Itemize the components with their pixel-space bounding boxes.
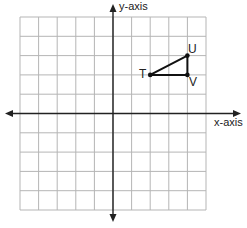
point-label-v: V	[189, 76, 197, 88]
y-axis-down-arrow-icon	[110, 214, 117, 222]
y-axis-up-arrow-icon	[110, 4, 117, 12]
coordinate-plane	[0, 0, 247, 228]
y-axis-label: y-axis	[119, 1, 148, 12]
x-axis-label: x-axis	[214, 117, 243, 128]
point-label-t: T	[139, 68, 146, 80]
x-axis-left-arrow-icon	[5, 110, 13, 117]
point-label-u: U	[188, 43, 197, 55]
point-t-dot	[148, 73, 153, 78]
